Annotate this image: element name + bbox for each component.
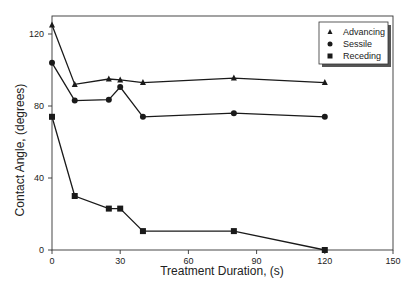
- square-marker-icon: [106, 206, 112, 212]
- y-tick-label: 40: [34, 173, 44, 183]
- x-tick-label: 30: [115, 256, 125, 266]
- x-tick-label: 120: [317, 256, 332, 266]
- square-marker-icon: [117, 206, 123, 212]
- circle-marker-icon: [106, 97, 112, 103]
- circle-marker-icon: [49, 60, 55, 66]
- square-marker-icon: [231, 228, 237, 234]
- series-line: [52, 63, 325, 117]
- series-sessile: [49, 60, 328, 120]
- square-marker-icon: [72, 193, 78, 199]
- x-tick-label: 0: [49, 256, 54, 266]
- y-tick-label: 80: [34, 101, 44, 111]
- square-marker-icon: [322, 247, 328, 253]
- legend-label: Advancing: [343, 27, 385, 37]
- y-axis-title: Contact Angle, (degrees): [13, 84, 27, 217]
- legend-label: Receding: [343, 51, 381, 61]
- square-marker-icon: [328, 54, 333, 59]
- circle-marker-icon: [72, 98, 78, 104]
- series-line: [52, 117, 325, 250]
- x-tick-label: 150: [385, 256, 400, 266]
- contact-angle-chart: 04080120 0306090120150 Treatment Duratio…: [0, 0, 414, 290]
- square-marker-icon: [49, 114, 55, 120]
- legend: AdvancingSessileReceding: [319, 22, 391, 67]
- circle-marker-icon: [328, 42, 333, 47]
- y-axis-ticks: 04080120: [29, 29, 52, 255]
- triangle-marker-icon: [49, 22, 55, 28]
- legend-label: Sessile: [343, 39, 372, 49]
- x-axis-title: Treatment Duration, (s): [160, 264, 284, 278]
- circle-marker-icon: [117, 84, 123, 90]
- y-tick-label: 0: [39, 245, 44, 255]
- series-layer: [49, 22, 328, 254]
- triangle-marker-icon: [106, 76, 112, 82]
- circle-marker-icon: [140, 114, 146, 120]
- square-marker-icon: [140, 228, 146, 234]
- series-line: [52, 25, 325, 84]
- series-receding: [49, 114, 328, 253]
- circle-marker-icon: [322, 114, 328, 120]
- y-tick-label: 120: [29, 29, 44, 39]
- series-advancing: [49, 22, 328, 87]
- circle-marker-icon: [231, 110, 237, 116]
